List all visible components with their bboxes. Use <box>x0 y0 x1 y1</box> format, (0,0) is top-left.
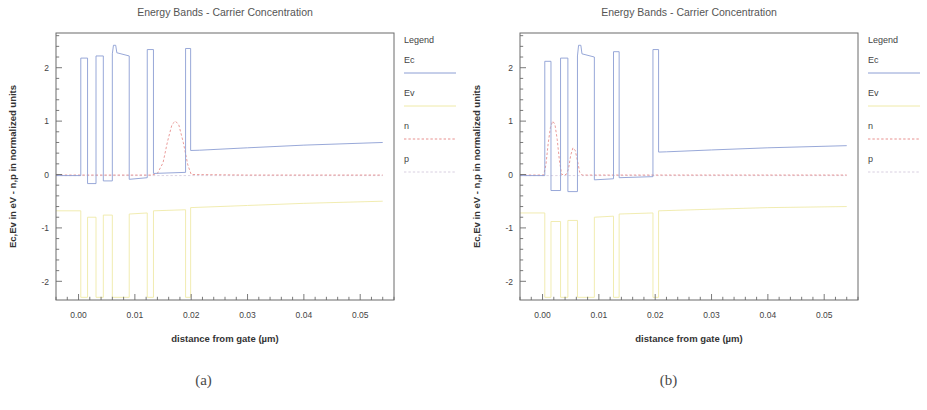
x-tick-label: 0.05 <box>352 310 369 320</box>
legend-title: Legend <box>868 35 898 45</box>
legend-label-p: p <box>404 154 409 164</box>
chart-title: Energy Bands - Carrier Concentration <box>137 6 313 18</box>
legend-title: Legend <box>404 35 434 45</box>
plot-frame <box>520 33 858 300</box>
x-tick-label: 0.04 <box>760 310 777 320</box>
y-tick-label: 1 <box>508 116 513 126</box>
series-line-Ec <box>520 45 847 191</box>
x-tick-label: 0.03 <box>703 310 720 320</box>
chart-svg-b: Energy Bands - Carrier Concentration0.00… <box>464 0 927 372</box>
x-tick-label: 0.00 <box>534 310 551 320</box>
chart-svg-a: Energy Bands - Carrier Concentration0.00… <box>0 0 463 372</box>
x-axis-label: distance from gate (µm) <box>635 333 742 344</box>
legend-label-Ev: Ev <box>868 88 879 98</box>
legend-label-n: n <box>404 121 409 131</box>
legend: LegendEcEvnp <box>404 35 456 172</box>
legend-label-Ec: Ec <box>868 55 879 65</box>
subfigure-caption-a: (a) <box>0 372 435 389</box>
plot-frame <box>56 33 394 300</box>
y-tick-label: 2 <box>508 63 513 73</box>
x-tick-label: 0.05 <box>816 310 833 320</box>
y-tick-label: -2 <box>41 277 49 287</box>
figure-container: Energy Bands - Carrier Concentration0.00… <box>0 0 927 410</box>
y-tick-label: 0 <box>508 170 513 180</box>
legend-label-Ev: Ev <box>404 88 415 98</box>
x-tick-label: 0.02 <box>183 310 200 320</box>
x-tick-label: 0.01 <box>127 310 144 320</box>
series-line-Ev <box>56 201 383 297</box>
x-tick-label: 0.04 <box>296 310 313 320</box>
y-axis-label: Ec,Ev in eV - n,p in normalized units <box>471 85 482 248</box>
data-area <box>56 45 383 297</box>
y-tick-label: -1 <box>41 223 49 233</box>
y-tick-label: 0 <box>44 170 49 180</box>
legend: LegendEcEvnp <box>868 35 920 172</box>
x-tick-label: 0.02 <box>647 310 664 320</box>
x-axis-label: distance from gate (µm) <box>171 333 278 344</box>
y-tick-label: -2 <box>505 277 513 287</box>
series-line-Ev <box>520 207 847 298</box>
x-tick-label: 0.00 <box>70 310 87 320</box>
chart-title: Energy Bands - Carrier Concentration <box>601 6 777 18</box>
legend-label-n: n <box>868 121 873 131</box>
y-axis-label: Ec,Ev in eV - n,p in normalized units <box>7 85 18 248</box>
legend-label-Ec: Ec <box>404 55 415 65</box>
series-line-Ec <box>56 45 383 183</box>
legend-label-p: p <box>868 154 873 164</box>
x-tick-label: 0.03 <box>239 310 256 320</box>
subfigure-caption-b: (b) <box>437 372 900 389</box>
data-area <box>520 45 847 297</box>
plot-panel-a: Energy Bands - Carrier Concentration0.00… <box>0 0 463 372</box>
y-tick-label: 2 <box>44 63 49 73</box>
y-tick-label: -1 <box>505 223 513 233</box>
y-tick-label: 1 <box>44 116 49 126</box>
x-tick-label: 0.01 <box>591 310 608 320</box>
series-line-n <box>56 121 383 175</box>
series-line-n <box>520 121 847 175</box>
plot-panel-b: Energy Bands - Carrier Concentration0.00… <box>464 0 927 372</box>
